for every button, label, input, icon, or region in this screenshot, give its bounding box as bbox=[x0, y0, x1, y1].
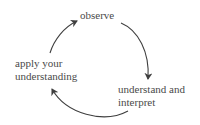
node-understand-line-2: interpret bbox=[118, 96, 185, 109]
node-observe-line-1: observe bbox=[80, 9, 114, 22]
node-apply-line-1: apply your bbox=[15, 57, 77, 70]
arrow-observe-to-understand bbox=[121, 23, 148, 79]
node-apply-line-2: understanding bbox=[15, 70, 77, 83]
arrow-understand-to-apply bbox=[52, 89, 128, 117]
node-apply-your-understanding: apply your understanding bbox=[15, 57, 77, 82]
node-understand-line-1: understand and bbox=[118, 83, 185, 96]
arrow-apply-to-observe bbox=[50, 21, 77, 53]
node-observe: observe bbox=[80, 9, 114, 22]
node-understand-and-interpret: understand and interpret bbox=[118, 83, 185, 108]
